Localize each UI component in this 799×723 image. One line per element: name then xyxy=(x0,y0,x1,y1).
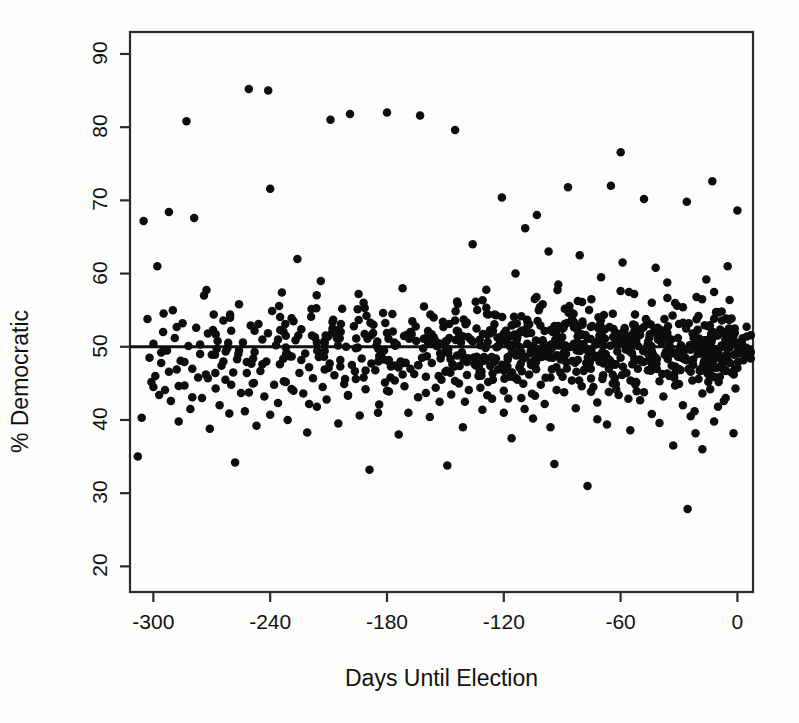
data-point xyxy=(137,414,146,423)
data-point xyxy=(510,312,519,321)
data-point xyxy=(360,304,369,313)
data-point xyxy=(634,364,643,373)
data-point xyxy=(650,326,659,335)
data-point xyxy=(598,348,607,357)
x-axis-tick-label: -300 xyxy=(108,610,198,634)
data-point xyxy=(644,337,653,346)
data-point xyxy=(235,300,244,309)
data-point xyxy=(483,338,492,347)
data-point xyxy=(198,394,207,403)
data-point xyxy=(692,315,701,324)
data-point xyxy=(361,385,370,394)
data-point xyxy=(503,362,512,371)
data-point xyxy=(283,416,292,425)
data-point xyxy=(548,365,557,374)
data-point xyxy=(628,330,637,339)
data-point xyxy=(540,400,549,409)
data-point xyxy=(500,408,509,417)
data-point xyxy=(464,333,473,342)
data-point xyxy=(266,184,275,193)
data-point xyxy=(239,338,248,347)
data-point xyxy=(660,327,669,336)
data-point xyxy=(533,317,542,326)
data-point xyxy=(305,363,314,372)
data-point xyxy=(616,148,625,157)
data-point xyxy=(451,316,460,325)
data-point xyxy=(274,335,283,344)
data-point xyxy=(320,337,329,346)
data-point xyxy=(295,369,304,378)
x-axis-tick-label: -120 xyxy=(459,610,549,634)
data-point xyxy=(215,401,224,410)
data-point xyxy=(330,371,339,380)
data-point xyxy=(289,317,298,326)
data-point xyxy=(571,322,580,331)
data-point xyxy=(355,411,364,420)
data-point xyxy=(714,403,723,412)
data-point xyxy=(613,347,622,356)
data-point xyxy=(172,323,181,332)
x-axis-tick-label: -60 xyxy=(576,610,666,634)
data-point xyxy=(365,466,374,475)
data-point xyxy=(478,405,487,414)
data-point xyxy=(683,198,692,207)
plot-frame xyxy=(130,32,753,592)
data-point xyxy=(317,277,326,286)
data-point xyxy=(294,331,303,340)
data-point xyxy=(422,389,431,398)
data-point xyxy=(693,350,702,359)
data-point xyxy=(668,311,677,320)
data-point xyxy=(279,327,288,336)
data-point xyxy=(708,177,717,186)
data-point xyxy=(383,108,392,117)
data-point xyxy=(157,359,166,368)
data-point xyxy=(139,217,148,226)
data-point xyxy=(723,327,732,336)
data-point xyxy=(730,329,739,338)
data-point xyxy=(593,415,602,424)
data-point xyxy=(629,320,638,329)
data-point xyxy=(211,350,220,359)
data-point xyxy=(447,390,456,399)
data-point xyxy=(700,336,709,345)
data-point xyxy=(632,378,641,387)
data-point xyxy=(498,193,507,202)
data-point xyxy=(209,310,218,319)
data-point xyxy=(589,350,598,359)
data-point xyxy=(520,405,529,414)
data-point xyxy=(344,391,353,400)
data-point xyxy=(544,247,553,256)
data-point xyxy=(603,420,612,429)
data-point xyxy=(528,390,537,399)
data-point xyxy=(671,299,680,308)
data-point xyxy=(424,327,433,336)
data-point xyxy=(231,458,240,467)
data-point xyxy=(593,398,602,407)
data-point xyxy=(489,375,498,384)
data-point xyxy=(674,334,683,343)
data-point xyxy=(361,366,370,375)
data-point xyxy=(580,365,589,374)
data-point xyxy=(451,307,460,316)
data-point xyxy=(636,396,645,405)
data-point xyxy=(659,334,668,343)
data-point xyxy=(184,342,193,351)
data-point xyxy=(477,371,486,380)
data-point xyxy=(160,346,169,355)
data-point xyxy=(698,389,707,398)
data-point xyxy=(264,329,273,338)
data-point xyxy=(360,330,369,339)
data-point xyxy=(691,429,700,438)
data-point xyxy=(698,445,707,454)
data-point xyxy=(723,262,732,271)
data-point xyxy=(245,388,254,397)
data-point xyxy=(486,362,495,371)
data-point xyxy=(471,297,480,306)
data-point xyxy=(519,326,528,335)
data-point xyxy=(552,386,561,395)
x-axis-tick-label: -180 xyxy=(342,610,432,634)
data-point xyxy=(227,381,236,390)
data-point xyxy=(245,85,254,94)
data-point xyxy=(258,360,267,369)
data-point xyxy=(313,338,322,347)
